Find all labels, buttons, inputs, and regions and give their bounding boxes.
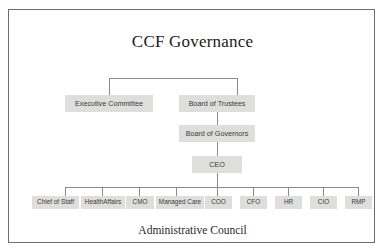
connector-drop-rmp (358, 187, 359, 196)
connector-drop-hr (288, 187, 289, 196)
node-cio[interactable]: CIO (310, 196, 337, 209)
connector-drop-chief-of-staff (65, 187, 66, 196)
node-cfo[interactable]: CFO (240, 196, 267, 209)
connector-top-bracket (109, 78, 237, 79)
node-executive-committee[interactable]: Executive Committee (65, 95, 153, 112)
connector-drop-managed-care (176, 187, 177, 196)
node-managed-care[interactable]: Managed Care (156, 196, 204, 209)
page-title: CCF Governance (9, 32, 376, 52)
connector-governors-to-ceo (217, 142, 218, 156)
connector-trustees-drop (237, 78, 238, 95)
node-board-of-trustees[interactable]: Board of Trustees (179, 95, 255, 112)
node-hr[interactable]: HR (275, 196, 302, 209)
connector-drop-coo (217, 187, 218, 196)
node-coo[interactable]: COO (205, 196, 232, 209)
connector-drop-health-affairs (102, 187, 103, 196)
figure-caption: Administrative Council (9, 224, 376, 236)
connector-drop-cfo (253, 187, 254, 196)
node-board-of-governors[interactable]: Board of Governors (179, 125, 255, 142)
node-ceo[interactable]: CEO (192, 156, 242, 173)
connector-ceo-stem (217, 173, 218, 187)
org-chart-figure: CCF Governance Executive Committee Board… (0, 0, 383, 251)
connector-trustees-to-governors (217, 112, 218, 125)
figure-frame: CCF Governance Executive Committee Board… (8, 9, 375, 243)
connector-council-bus (65, 187, 358, 188)
node-chief-of-staff[interactable]: Chief of Staff (32, 196, 79, 209)
connector-drop-cmo (139, 187, 140, 196)
node-health-affairs[interactable]: HealthAffairs (81, 196, 125, 209)
connector-exec-drop (109, 78, 110, 95)
node-rmp[interactable]: RMP (345, 196, 372, 209)
node-cmo[interactable]: CMO (126, 196, 154, 209)
connector-drop-cio (323, 187, 324, 196)
